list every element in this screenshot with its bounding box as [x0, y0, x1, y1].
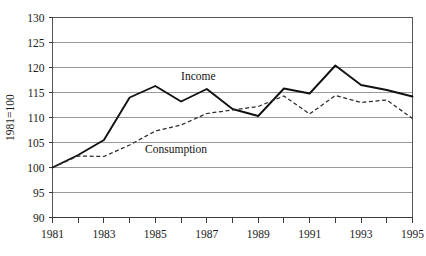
data-series-group [53, 66, 413, 168]
y-axis-title: 1981=100 [4, 94, 16, 141]
x-tick-label-1987: 1987 [195, 228, 218, 240]
series-annotations: IncomeConsumption [145, 70, 215, 157]
series-label-consumption: Consumption [145, 143, 207, 156]
series-line-consumption [53, 96, 413, 168]
y-tick-label-90: 90 [33, 212, 45, 224]
x-tick-labels: 19811983198519871989199119931995 [41, 228, 424, 240]
y-tick-label-110: 110 [28, 112, 45, 124]
x-tick-label-1985: 1985 [144, 228, 167, 240]
x-tick-label-1981: 1981 [41, 228, 64, 240]
gridlines-group [53, 18, 413, 193]
y-tick-label-130: 130 [27, 12, 45, 24]
series-line-income [53, 66, 413, 168]
x-tick-label-1995: 1995 [401, 228, 424, 240]
y-tick-label-115: 115 [28, 87, 45, 99]
chart-figure: 9095100105110115120125130198119831985198… [0, 0, 426, 256]
y-tick-label-105: 105 [27, 137, 45, 149]
line-chart-canvas: 9095100105110115120125130198119831985198… [0, 0, 426, 256]
y-tick-labels: 9095100105110115120125130 [27, 12, 45, 224]
y-tick-label-125: 125 [27, 37, 45, 49]
x-tick-label-1989: 1989 [247, 228, 270, 240]
y-tick-label-120: 120 [27, 62, 45, 74]
y-tick-label-100: 100 [27, 162, 45, 174]
x-tick-label-1983: 1983 [92, 228, 115, 240]
x-tick-marks [53, 218, 413, 223]
series-label-income: Income [181, 70, 215, 82]
y-tick-marks [49, 18, 53, 218]
x-tick-label-1991: 1991 [298, 228, 321, 240]
x-tick-label-1993: 1993 [350, 228, 373, 240]
y-tick-label-95: 95 [33, 187, 45, 199]
